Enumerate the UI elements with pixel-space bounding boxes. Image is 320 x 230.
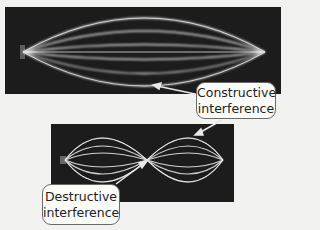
destructive-label-line1: Destructive [43,189,119,205]
arrow-head-top [153,83,161,89]
arrow-to-node [116,164,143,184]
constructive-label-line2: interference [197,101,275,117]
destructive-label-line2: interference [43,205,119,221]
constructive-label-line1: Constructive [197,85,275,101]
arrow-head-bottom-antinode [195,129,203,135]
destructive-interference-callout: Destructive interference [42,184,120,225]
constructive-interference-callout: Constructive interference [196,82,276,119]
arrow-to-top-antinode [157,86,200,95]
